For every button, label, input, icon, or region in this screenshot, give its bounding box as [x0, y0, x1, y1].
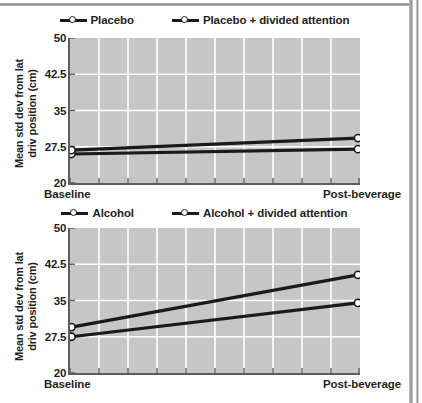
line-marker-icon — [172, 209, 199, 218]
page-border-right-outer — [416, 0, 419, 403]
line-marker-icon — [172, 16, 199, 25]
chart-svg — [70, 38, 360, 183]
plot-area-placebo — [68, 38, 360, 185]
x-axis-label-right: Post-beverage — [323, 188, 401, 200]
line-marker-icon — [61, 209, 88, 218]
legend-item-placebo[interactable]: Placebo — [60, 14, 134, 26]
legend-placebo: Placebo Placebo + divided attention — [0, 10, 409, 30]
y-axis-tick-label: 27.5 — [45, 141, 66, 153]
y-axis-title-line1: Mean std dev from lat — [13, 252, 26, 361]
y-axis-tick-label: 50 — [54, 32, 66, 44]
data-point-marker — [354, 271, 360, 278]
y-axis-tick-label: 35 — [54, 295, 66, 307]
x-axis-label-left: Baseline — [44, 188, 91, 200]
chart-svg — [70, 228, 360, 373]
data-point-marker — [354, 134, 360, 141]
x-axis-label-left: Baseline — [44, 378, 91, 390]
y-axis-tick-labels: 5042.53527.520 — [32, 38, 66, 183]
y-axis-tick-label: 42.5 — [45, 258, 66, 270]
y-axis-title-line1: Mean std dev from lat — [13, 59, 26, 168]
y-axis-tick-label: 27.5 — [45, 331, 66, 343]
y-axis-tick-label: 35 — [54, 105, 66, 117]
legend-item-alcohol-divided-attention[interactable]: Alcohol + divided attention — [172, 207, 348, 219]
legend-item-alcohol[interactable]: Alcohol — [61, 207, 133, 219]
legend-label: Alcohol — [92, 207, 133, 219]
legend-label: Placebo — [91, 14, 134, 26]
legend-label: Placebo + divided attention — [203, 14, 350, 26]
y-axis-tick-label: 50 — [54, 222, 66, 234]
data-point-marker — [70, 147, 75, 154]
page-border-top — [0, 3, 409, 6]
chart-panel-alcohol: Alcohol Alcohol + divided attention Mean… — [0, 203, 409, 403]
legend-alcohol: Alcohol Alcohol + divided attention — [0, 203, 409, 223]
line-marker-icon — [60, 16, 87, 25]
y-axis-tick-label: 42.5 — [45, 68, 66, 80]
data-point-marker — [354, 146, 360, 153]
data-point-marker — [354, 299, 360, 306]
data-point-marker — [70, 333, 75, 340]
y-axis-tick-labels: 5042.53527.520 — [32, 228, 66, 373]
chart-panel-placebo: Placebo Placebo + divided attention Mean… — [0, 10, 409, 202]
legend-item-placebo-divided-attention[interactable]: Placebo + divided attention — [172, 14, 350, 26]
legend-label: Alcohol + divided attention — [203, 207, 348, 219]
page-border-right — [409, 0, 413, 403]
plot-area-alcohol — [68, 228, 360, 375]
x-axis-label-right: Post-beverage — [323, 378, 401, 390]
data-point-marker — [70, 323, 75, 330]
